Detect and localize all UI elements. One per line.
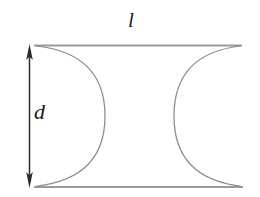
left-arc-curve — [37, 46, 105, 186]
figure-canvas: l d — [0, 0, 260, 197]
diameter-dimension-label: d — [34, 101, 45, 123]
length-dimension-label: l — [128, 10, 134, 31]
right-arc-curve — [174, 46, 240, 186]
